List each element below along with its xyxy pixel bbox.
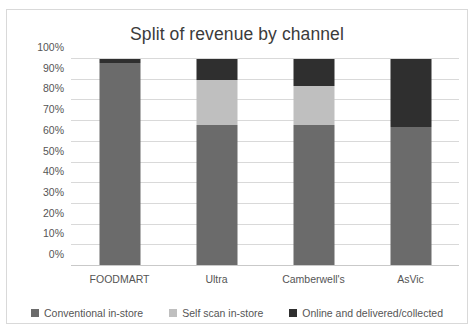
x-axis-category-label: AsVic xyxy=(397,273,424,285)
stacked-bar[interactable] xyxy=(390,59,431,266)
y-axis-tick-label: 60% xyxy=(43,124,64,136)
chart-title: Split of revenue by channel xyxy=(7,24,467,45)
bar-segment[interactable] xyxy=(293,86,334,125)
y-axis-tick-label: 40% xyxy=(43,165,64,177)
y-axis-tick-label: 50% xyxy=(43,145,64,157)
stacked-bar[interactable] xyxy=(99,59,140,266)
bar-segment[interactable] xyxy=(390,127,431,266)
legend-label: Self scan in-store xyxy=(182,307,263,319)
x-axis-category-label: FOODMART xyxy=(90,273,150,285)
bar-segment[interactable] xyxy=(196,59,237,80)
legend-label: Online and delivered/collected xyxy=(302,307,443,319)
legend-item[interactable]: Online and delivered/collected xyxy=(289,307,443,319)
y-axis-tick-label: 30% xyxy=(43,186,64,198)
y-axis-tick-label: 0% xyxy=(49,248,64,260)
legend-swatch-icon xyxy=(169,309,177,317)
y-axis-tick-label: 70% xyxy=(43,103,64,115)
legend-item[interactable]: Conventional in-store xyxy=(31,307,143,319)
bar-segment[interactable] xyxy=(99,59,140,63)
bar-segment[interactable] xyxy=(99,63,140,266)
bar-slot: AsVic xyxy=(362,59,459,266)
bar-slot: Camberwell's xyxy=(265,59,362,266)
y-axis-tick-label: 10% xyxy=(43,227,64,239)
y-axis-tick-label: 90% xyxy=(43,62,64,74)
bar-slot: FOODMART xyxy=(71,59,168,266)
plot-area: 0%10%20%30%40%50%60%70%80%90%100% FOODMA… xyxy=(71,59,459,266)
stacked-bar[interactable] xyxy=(196,59,237,266)
chart-legend: Conventional in-storeSelf scan in-storeO… xyxy=(7,307,467,319)
x-axis-category-label: Ultra xyxy=(205,273,227,285)
bar-segment[interactable] xyxy=(293,125,334,266)
chart-frame: Split of revenue by channel 0%10%20%30%4… xyxy=(6,9,468,324)
bar-segment[interactable] xyxy=(196,80,237,126)
stacked-bar[interactable] xyxy=(293,59,334,266)
legend-swatch-icon xyxy=(31,309,39,317)
y-axis-tick-label: 80% xyxy=(43,82,64,94)
bar-segment[interactable] xyxy=(293,59,334,86)
bar-segment[interactable] xyxy=(196,125,237,266)
legend-item[interactable]: Self scan in-store xyxy=(169,307,263,319)
legend-label: Conventional in-store xyxy=(44,307,143,319)
x-axis-line xyxy=(71,265,459,266)
bar-slot: Ultra xyxy=(168,59,265,266)
x-axis-category-label: Camberwell's xyxy=(282,273,345,285)
legend-swatch-icon xyxy=(289,309,297,317)
bar-segment[interactable] xyxy=(390,59,431,127)
y-axis-tick-label: 20% xyxy=(43,207,64,219)
y-axis-tick-label: 100% xyxy=(37,41,64,53)
